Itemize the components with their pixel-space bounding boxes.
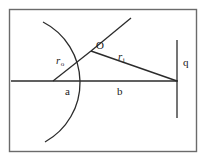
- ray-r-field: [91, 51, 177, 81]
- label-r-field-base: r: [118, 50, 122, 62]
- label-r-source: ro: [56, 55, 64, 66]
- diagram-canvas: ro O rj a b q: [0, 0, 211, 164]
- label-r-source-base: r: [56, 54, 60, 66]
- label-r-field-subscript: j: [123, 56, 125, 64]
- label-segment-b: b: [117, 86, 123, 97]
- label-segment-a: a: [65, 86, 70, 97]
- label-r-source-subscript: o: [61, 60, 65, 68]
- label-origin: O: [96, 40, 104, 51]
- label-charge-q: q: [183, 57, 189, 68]
- circular-arc: [43, 22, 80, 142]
- label-r-field: rj: [118, 51, 124, 62]
- geometry-figure: [0, 0, 211, 164]
